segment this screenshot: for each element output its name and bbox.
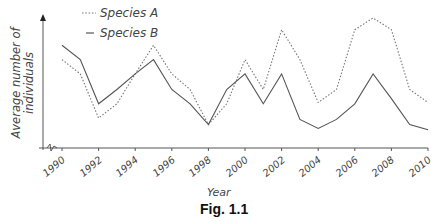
legend-label-species-b: Species B	[100, 26, 158, 40]
solid-line-icon	[82, 31, 96, 35]
series-b-line	[62, 45, 428, 130]
legend-label-species-a: Species A	[100, 6, 158, 20]
figure-caption: Fig. 1.1	[200, 201, 248, 217]
dotted-line-icon	[82, 11, 96, 15]
legend: Species A Species B	[82, 3, 158, 43]
legend-item-species-a: Species A	[82, 3, 158, 23]
y-axis-label-line2: individuals	[23, 8, 36, 158]
y-axis-label: Average number of individuals	[10, 8, 36, 158]
legend-item-species-b: Species B	[82, 23, 158, 43]
y-axis-arrow-icon	[40, 14, 46, 21]
x-axis-label: Year	[207, 186, 231, 199]
